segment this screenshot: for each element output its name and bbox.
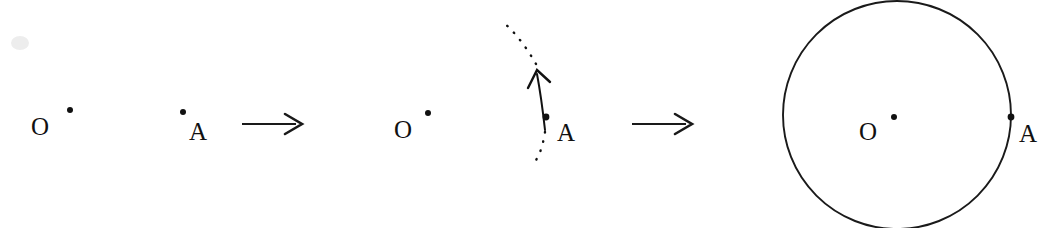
constructed-circle [783,1,1011,228]
panel2-centre-label: O [394,116,412,143]
panel-rotating-point: O A [394,22,575,163]
transition-arrow-1 [242,114,302,134]
panel3-centre-point [891,114,897,120]
panel-completed-circle: O A [783,1,1037,228]
panel2-point-label: A [557,119,575,146]
panel1-moving-point [180,109,186,115]
panel3-point-label: A [1019,120,1037,147]
panel3-circumference-point [1008,114,1015,121]
panel2-rotation-arc [537,74,545,130]
circle-construction-figure: O A O A [0,0,1055,228]
panel2-dashed-path-upper [503,22,536,64]
panel1-centre-point [67,107,73,113]
panel2-moving-point [543,114,550,121]
figure-canvas: O A O A [0,0,1055,228]
panel2-dashed-path-lower [534,132,545,163]
panel-two-points: O A [31,107,207,145]
transition-arrow-2 [632,114,692,134]
panel3-centre-label: O [859,118,877,145]
panel1-point-label: A [189,118,207,145]
scan-artifact-smudge [11,36,29,50]
panel2-centre-point [425,110,431,116]
panel1-centre-label: O [31,113,49,140]
